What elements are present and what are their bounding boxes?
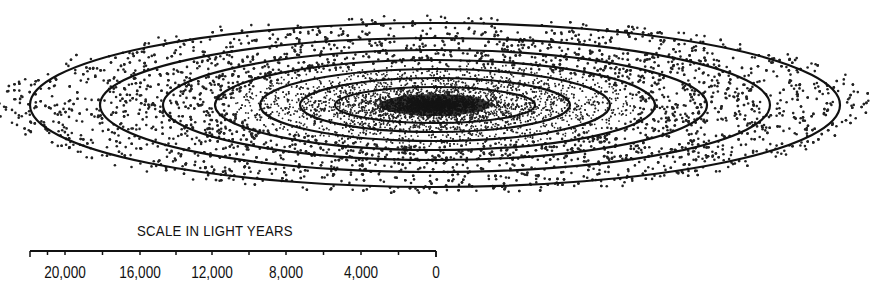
tick-label: 20,000 bbox=[44, 264, 86, 282]
galaxy-diagram bbox=[0, 0, 874, 210]
tick-label: 4,000 bbox=[344, 264, 378, 282]
tick-label: 8,000 bbox=[269, 264, 303, 282]
tick-label: 12,000 bbox=[191, 264, 233, 282]
scale-title: SCALE IN LIGHT YEARS bbox=[137, 222, 293, 239]
tick-label: 0 bbox=[432, 264, 440, 282]
scale-bar bbox=[0, 245, 874, 265]
tick-label: 16,000 bbox=[119, 264, 161, 282]
